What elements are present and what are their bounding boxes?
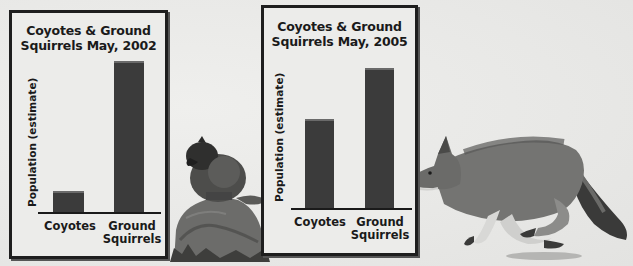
chart-2002-bar-ground-squirrels — [114, 61, 144, 213]
chart-2002-title: Coyotes & Ground Squirrels May, 2002 — [12, 23, 165, 53]
chart-2002-y-axis-label: Population (estimate) — [26, 78, 38, 207]
chart-2005-frame: Coyotes & Ground Squirrels May, 2005 Pop… — [261, 5, 418, 256]
chart-2005-title-line1: Coyotes & Ground — [264, 19, 415, 34]
chart-2002-x-label-coyotes: Coyotes — [38, 220, 102, 233]
chart-2005-x-label-squirrels: Squirrels — [350, 229, 410, 242]
chart-2005-bar-coyotes — [305, 119, 334, 209]
chart-2002-frame: Coyotes & Ground Squirrels May, 2002 Pop… — [9, 10, 168, 259]
chart-2005-y-axis-label: Population (estimate) — [273, 73, 285, 202]
chart-2002-title-line1: Coyotes & Ground — [12, 23, 165, 38]
chart-2002-title-line2: Squirrels May, 2002 — [12, 38, 165, 53]
chart-2005-bar-ground-squirrels — [365, 68, 394, 209]
chart-2005-x-axis-line — [291, 208, 412, 210]
chart-2002-bar-coyotes — [53, 191, 84, 213]
chart-2005-x-label-coyotes: Coyotes — [288, 216, 352, 229]
coyote-photo — [404, 128, 633, 266]
chart-2002-x-label-squirrels: Squirrels — [102, 233, 162, 246]
chart-2005-title: Coyotes & Ground Squirrels May, 2005 — [264, 19, 415, 49]
chart-2005-title-line2: Squirrels May, 2005 — [264, 34, 415, 49]
chart-2002-x-axis-line — [38, 212, 161, 214]
chart-2002-x-label-ground-squirrels: Ground Squirrels — [102, 220, 162, 246]
ground-squirrel-photo — [166, 122, 270, 262]
chart-2005-x-label-ground-squirrels: Ground Squirrels — [350, 216, 410, 242]
